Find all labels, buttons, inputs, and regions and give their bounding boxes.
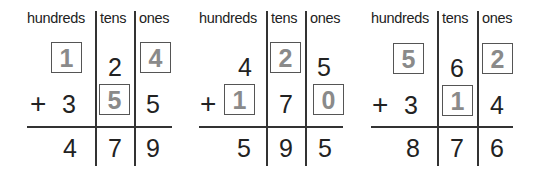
plus-sign: + [30,90,46,118]
digit-sum-tens: 7 [100,136,130,161]
answer-box-bottom-hundreds[interactable]: 1 [224,84,255,115]
problem-1: hundreds tens ones 1 2 4 + 3 5 5 4 7 9 [0,0,180,173]
answer-box-top-hundreds[interactable]: 5 [393,43,424,74]
answer-box-bottom-ones[interactable]: 0 [313,84,344,115]
answer-box-top-ones[interactable]: 4 [140,42,171,73]
digit-sum-tens: 7 [442,136,472,161]
digit-sum-hundreds: 4 [55,136,85,161]
digit-bottom-ones: 4 [482,93,512,118]
answer-box-top-tens[interactable]: 2 [270,42,301,73]
digit: 4 [141,46,170,71]
digit-bottom-hundreds: 3 [54,92,84,117]
column-divider [134,11,136,166]
digit-bottom-tens: 7 [271,92,301,117]
sum-line [199,126,343,128]
digit-sum-ones: 5 [310,136,340,161]
answer-box-bottom-tens[interactable]: 1 [442,85,473,116]
header-hundreds: hundreds [27,10,85,26]
digit: 1 [225,88,254,113]
header-tens: tens [271,10,297,26]
digit: 2 [271,46,300,71]
plus-sign: + [372,91,388,119]
digit: 5 [100,88,129,113]
digit-top-tens: 6 [442,56,472,81]
answer-box-top-ones[interactable]: 2 [482,43,513,74]
digit-top-tens: 2 [100,55,130,80]
digit: 1 [52,46,81,71]
digit-top-hundreds: 4 [230,55,260,80]
sum-line [27,126,172,128]
digit: 5 [394,47,423,72]
digit-sum-ones: 6 [482,136,512,161]
header-tens: tens [100,10,126,26]
problem-2: hundreds tens ones 4 2 5 + 1 7 0 5 9 5 [180,0,360,173]
digit-sum-hundreds: 5 [229,136,259,161]
column-divider [437,11,439,166]
column-divider [95,11,97,166]
header-ones: ones [482,10,512,26]
problem-3: hundreds tens ones 5 6 2 + 3 1 4 8 7 6 [360,0,540,173]
digit: 1 [443,89,472,114]
digit-sum-hundreds: 8 [398,136,428,161]
column-divider [477,11,479,166]
answer-box-bottom-tens[interactable]: 5 [99,84,130,115]
digit-sum-ones: 9 [138,136,168,161]
header-ones: ones [310,10,340,26]
digit-bottom-ones: 5 [138,92,168,117]
digit-top-ones: 5 [309,55,339,80]
sum-line [371,126,513,128]
header-hundreds: hundreds [371,10,429,26]
header-ones: ones [139,10,169,26]
plus-sign: + [200,90,216,118]
column-divider [266,11,268,166]
header-tens: tens [442,10,468,26]
digit-bottom-hundreds: 3 [396,93,426,118]
column-divider [305,11,307,166]
answer-box-top-hundreds[interactable]: 1 [51,42,82,73]
digit-sum-tens: 9 [271,136,301,161]
digit: 2 [483,47,512,72]
digit: 0 [314,88,343,113]
header-hundreds: hundreds [199,10,257,26]
